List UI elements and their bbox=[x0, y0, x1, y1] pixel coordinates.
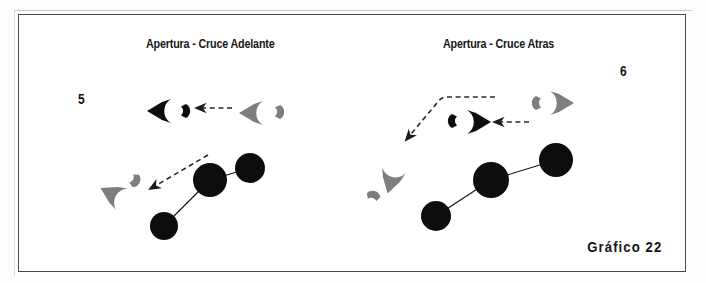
player-gray-wedge-lower-right-panel bbox=[376, 167, 405, 196]
player-gray-wedge-top-right-panel bbox=[550, 91, 574, 115]
diagram-vector-layer bbox=[0, 0, 706, 283]
player-dark-wedge-top-left-panel bbox=[147, 99, 171, 123]
player-dark-wedge-center-right-panel bbox=[467, 110, 491, 134]
ball-node-c-right-panel bbox=[539, 143, 573, 177]
player-gray-crescent-lower-left-panel bbox=[128, 172, 143, 189]
ball-node-b-left-panel bbox=[193, 163, 227, 197]
player-gray-wedge-lower-left-panel bbox=[95, 177, 127, 209]
player-dark-crescent-top-left-panel bbox=[181, 104, 190, 118]
panel-left-graphics bbox=[95, 99, 284, 240]
player-dark-crescent-center-right-panel bbox=[448, 114, 457, 128]
player-gray-crescent-top-right-panel bbox=[532, 96, 541, 110]
ball-node-b-right-panel bbox=[473, 162, 509, 198]
player-gray-wedge-top-left-panel bbox=[239, 101, 263, 125]
ball-node-a-left-panel bbox=[150, 212, 178, 240]
player-gray-crescent-lower-right-panel bbox=[365, 189, 381, 201]
player-gray-crescent-top-left-panel bbox=[275, 105, 284, 119]
panel-right-graphics bbox=[365, 91, 574, 231]
ball-node-c-left-panel bbox=[235, 153, 265, 183]
ball-node-a-right-panel bbox=[421, 201, 451, 231]
scanned-page: Apertura - Cruce Adelante 5 Apertura - C… bbox=[0, 0, 706, 283]
